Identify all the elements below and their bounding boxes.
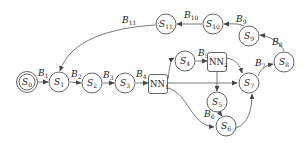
label-b3: B3 [102,70,114,81]
edge-nn1-s6 [168,88,214,127]
node-nn1: NN1 [149,75,169,94]
label-b8: B8 [271,37,283,48]
label-b7: B7 [254,58,266,69]
node-s7: S7 [239,73,259,93]
label-b4: B4 [135,69,147,80]
node-s8: S8 [274,52,294,72]
label-b11: B11 [121,15,136,26]
node-s9: S9 [239,26,259,46]
edge-nn1-s4 [168,58,174,79]
node-s6: S6 [216,116,236,136]
edge-s9-s10 [224,24,244,26]
node-s10: S10 [203,14,223,34]
edge-s5-s6 [219,112,222,116]
nodes: S0 S1 S2 S3 NN1 S4 NN2 S5 [17,14,295,136]
edge-s1-s2 [70,82,81,83]
node-s5: S5 [207,92,227,112]
node-s0: S0 [17,72,38,93]
edge-s6-s7 [236,94,252,128]
edge-nn2-s7 [227,58,242,73]
node-s4: S4 [175,51,195,71]
node-nn2: NN2 [208,53,228,72]
edge-s11-s1 [60,25,155,71]
label-b1: B1 [37,68,48,79]
label-b5: B5 [197,48,209,59]
node-s1: S1 [49,72,69,92]
node-s11: S11 [156,14,176,34]
node-s2: S2 [82,73,102,93]
label-b10: B10 [183,10,198,21]
label-b9: B9 [235,14,247,25]
node-s3: S3 [115,73,135,93]
state-diagram: B1 B2 B3 B4 B5 B6 B7 B8 B9 B10 B11 S0 S1… [0,0,303,150]
label-b2: B2 [70,69,82,80]
